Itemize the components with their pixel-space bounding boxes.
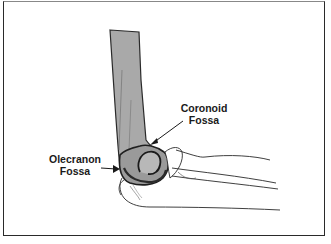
coronoid-arrowhead — [150, 138, 158, 145]
label-olecranon-line1: Olecranon — [44, 153, 106, 165]
label-coronoid-fossa: Coronoid Fossa — [176, 102, 232, 126]
label-olecranon-fossa: Olecranon Fossa — [44, 153, 106, 177]
capitulum — [138, 152, 160, 175]
label-coronoid-line1: Coronoid — [176, 102, 232, 114]
elbow-illustration — [0, 0, 331, 244]
label-coronoid-line2: Fossa — [176, 114, 232, 126]
label-olecranon-line2: Fossa — [44, 165, 106, 177]
radius-shaft — [176, 150, 270, 160]
